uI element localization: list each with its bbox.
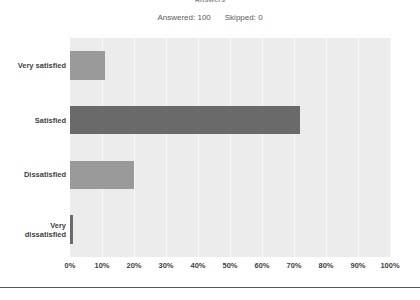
bar-row bbox=[70, 51, 390, 79]
y-axis-label-line: Dissatisfied bbox=[0, 170, 66, 179]
y-axis-label-very-dissatisfied: Verydissatisfied bbox=[0, 221, 66, 239]
bar-very-satisfied[interactable] bbox=[70, 51, 105, 79]
y-axis-label-satisfied: Satisfied bbox=[0, 116, 66, 125]
x-axis-tick-30pct: 30% bbox=[158, 261, 173, 270]
response-summary: Answered: 100Skipped: 0 bbox=[0, 13, 420, 22]
y-axis-category-labels: Very satisfiedSatisfiedDissatisfiedVeryd… bbox=[0, 38, 66, 257]
x-axis-tick-labels: 0%10%20%30%40%50%60%70%80%90%100% bbox=[0, 261, 420, 273]
skipped-count: Skipped: 0 bbox=[225, 13, 263, 22]
bar-satisfied[interactable] bbox=[70, 106, 300, 134]
footer-divider bbox=[0, 287, 420, 288]
y-axis-label-very-satisfied: Very satisfied bbox=[0, 61, 66, 70]
bar-row bbox=[70, 161, 390, 189]
x-axis-tick-0pct: 0% bbox=[65, 261, 76, 270]
x-axis-tick-70pct: 70% bbox=[286, 261, 301, 270]
bar-dissatisfied[interactable] bbox=[70, 161, 134, 189]
bar-chart-plot-area bbox=[70, 38, 391, 257]
y-axis-label-line: dissatisfied bbox=[0, 230, 66, 239]
x-axis-tick-90pct: 90% bbox=[350, 261, 365, 270]
y-axis-label-dissatisfied: Dissatisfied bbox=[0, 170, 66, 179]
y-axis-label-line: Very satisfied bbox=[0, 61, 66, 70]
bar-row bbox=[70, 106, 390, 134]
x-axis-tick-60pct: 60% bbox=[254, 261, 269, 270]
bar-row bbox=[70, 215, 390, 243]
x-axis-tick-20pct: 20% bbox=[126, 261, 141, 270]
bar-very-dissatisfied[interactable] bbox=[70, 215, 73, 243]
page-title: Answers bbox=[0, 0, 420, 3]
gridline bbox=[390, 38, 391, 257]
x-axis-tick-10pct: 10% bbox=[94, 261, 109, 270]
answered-count: Answered: 100 bbox=[157, 13, 210, 22]
y-axis-label-line: Very bbox=[0, 221, 66, 230]
survey-results-card: Answers Answered: 100Skipped: 0 Very sat… bbox=[0, 0, 420, 300]
x-axis-tick-50pct: 50% bbox=[222, 261, 237, 270]
x-axis-tick-80pct: 80% bbox=[318, 261, 333, 270]
x-axis-tick-40pct: 40% bbox=[190, 261, 205, 270]
x-axis-tick-100pct: 100% bbox=[380, 261, 399, 270]
y-axis-label-line: Satisfied bbox=[0, 116, 66, 125]
